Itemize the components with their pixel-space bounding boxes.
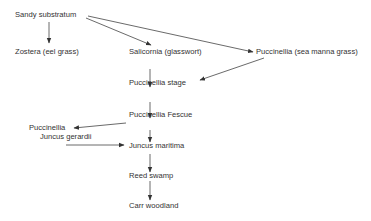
node-puccinellia-sea-manna-grass: Puccinellia (sea manna grass) xyxy=(256,48,358,56)
node-juncus-gerardii: Juncus gerardii xyxy=(40,133,92,141)
node-sandy-substratum: Sandy substratum xyxy=(15,11,76,19)
node-puccinellia-fescue: Puccinellia Fescue xyxy=(129,111,192,119)
node-salicornia: Salicornia (glasswort) xyxy=(129,48,202,56)
node-carr-woodland: Carr woodland xyxy=(129,202,178,210)
node-juncus-maritima: Juncus maritima xyxy=(129,142,184,150)
edge-sea-stage xyxy=(200,58,264,80)
node-reed-swamp: Reed swamp xyxy=(129,172,173,180)
edge-fescue-puccinellia-left xyxy=(74,123,126,128)
node-zostera: Zostera (eel grass) xyxy=(15,48,79,56)
node-puccinellia-stage: Puccinellia stage xyxy=(129,79,186,87)
node-puccinellia-left: Puccinellia xyxy=(29,124,65,132)
edge-sandy-salicornia xyxy=(86,18,151,45)
